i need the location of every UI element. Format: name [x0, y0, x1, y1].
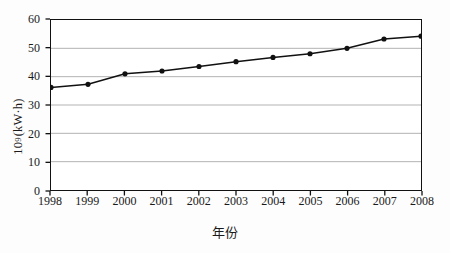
data-point-markers [51, 34, 421, 90]
data-point [51, 85, 54, 90]
data-point [344, 46, 349, 51]
x-axis-tick-label: 2002 [179, 195, 219, 207]
x-axis-tick-label: 1998 [30, 195, 70, 207]
data-point [381, 36, 386, 41]
x-axis-tick-label: 2008 [402, 195, 442, 207]
gridlines [51, 48, 421, 161]
data-point [307, 51, 312, 56]
y-axis-title-unit: (kW·h) [11, 98, 26, 136]
x-axis-tick-label: 2000 [104, 195, 144, 207]
data-point [233, 59, 238, 64]
x-axis-tick-label: 2004 [253, 195, 293, 207]
x-axis-tick-label: 2005 [290, 195, 330, 207]
x-axis-tick-label: 2003 [216, 195, 256, 207]
x-axis-tick-label: 2001 [142, 195, 182, 207]
data-point [85, 82, 90, 87]
data-point [196, 64, 201, 69]
y-axis-tick-label: 40 [14, 70, 40, 82]
y-axis-tick-label: 20 [14, 128, 40, 140]
data-point [418, 34, 421, 39]
data-point [270, 55, 275, 60]
line-chart-figure: 109(kW·h) 0102030405060 1998199920002001… [0, 0, 450, 253]
data-point [122, 71, 127, 76]
plot-area [50, 19, 422, 191]
x-axis-tick-label: 2006 [328, 195, 368, 207]
y-axis-tick-label: 30 [14, 99, 40, 111]
y-axis-tick-label: 50 [14, 42, 40, 54]
y-axis-title-base: 10 [11, 142, 26, 155]
x-axis-tick-label: 1999 [67, 195, 107, 207]
x-axis-title: 年份 [0, 222, 450, 241]
y-axis-title: 109(kW·h) [0, 0, 36, 253]
y-axis-tick-label: 60 [14, 13, 40, 25]
y-axis-tick-label: 10 [14, 156, 40, 168]
x-axis-tick-label: 2007 [365, 195, 405, 207]
plot-svg [51, 20, 421, 190]
data-point [159, 68, 164, 73]
